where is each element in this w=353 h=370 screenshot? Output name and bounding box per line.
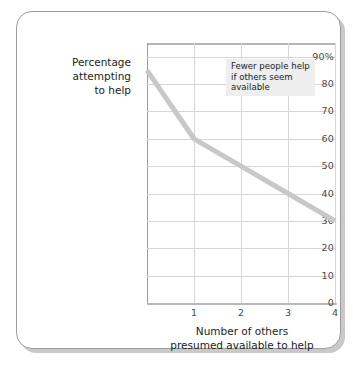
annotation-callout: Fewer people help if others seem availab…: [226, 59, 315, 96]
y-axis-title-line-1: Percentage: [43, 55, 131, 69]
x-tick-label: 3: [277, 307, 299, 318]
x-tick-label: 2: [230, 307, 252, 318]
y-axis-title: Percentage attempting to help: [43, 55, 131, 97]
y-axis-title-line-2: attempting: [43, 69, 131, 83]
x-tick-label: 1: [183, 307, 205, 318]
x-axis-title-line-2: presumed available to help: [147, 338, 337, 352]
figure-root: Percentage attempting to help 0102030405…: [0, 0, 353, 370]
figure-card: Percentage attempting to help 0102030405…: [16, 11, 341, 349]
x-tick-label: 4: [324, 307, 346, 318]
y-axis-title-line-3: to help: [43, 83, 131, 97]
x-axis-title-line-1: Number of others: [147, 324, 337, 338]
x-axis-title: Number of others presumed available to h…: [147, 324, 337, 352]
